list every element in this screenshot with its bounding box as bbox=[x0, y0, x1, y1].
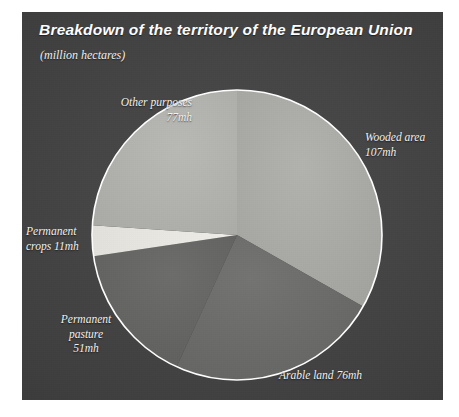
slice-label-wooded-area: Wooded area 107mh bbox=[365, 130, 443, 159]
figure-canvas: Breakdown of the territory of the Europe… bbox=[0, 0, 459, 417]
slice-label-arable-land: Arable land 76mh bbox=[279, 368, 409, 383]
chart-panel: Breakdown of the territory of the Europe… bbox=[22, 12, 443, 400]
slice-label-permanent-crops: Permanent crops 11mh bbox=[26, 224, 114, 253]
slice-label-permanent-pasture: Permanent pasture 51mh bbox=[34, 312, 138, 356]
slice-label-other-purposes: Other purposes 77mh bbox=[72, 95, 192, 124]
